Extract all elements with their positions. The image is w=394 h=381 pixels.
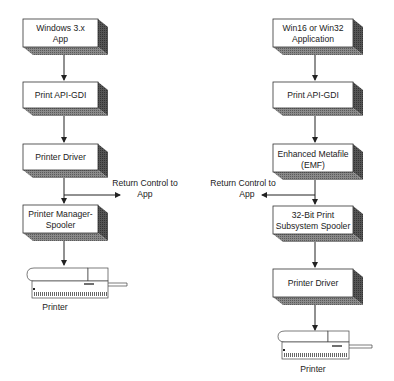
return-label: Return Control to — [112, 178, 178, 188]
return-label: Return Control to — [210, 178, 276, 188]
box-label: Application — [292, 34, 334, 44]
box-label: Windows 3.x — [36, 23, 85, 33]
box-windows-app: Windows 3.x App — [23, 19, 108, 55]
box-printer-manager-spooler: Printer Manager- Spooler — [23, 205, 108, 241]
box-win16-win32-application: Win16 or Win32 Application — [273, 19, 363, 55]
printer-icon — [27, 268, 127, 298]
box-label: 32-Bit Print — [292, 210, 335, 220]
box-print-api-gdi: Print API-GDI — [23, 82, 108, 116]
box-label: Enhanced Metafile — [277, 149, 348, 159]
printer-icon — [278, 331, 372, 359]
box-label: Print API-GDI — [35, 90, 87, 100]
box-print-api-gdi: Print API-GDI — [273, 82, 363, 116]
box-printer-driver: Printer Driver — [23, 144, 108, 178]
return-label: App — [137, 189, 153, 199]
printer-label: Printer — [42, 302, 67, 312]
box-label: Subsystem Spooler — [276, 221, 351, 231]
box-printer-driver: Printer Driver — [273, 269, 363, 305]
print-architecture-diagram: Windows 3.x App Print API-GDI Printer Dr… — [0, 0, 394, 381]
box-label: Printer Driver — [35, 152, 86, 162]
box-label: Printer Manager- — [28, 209, 93, 219]
box-label: App — [53, 34, 69, 44]
box-enhanced-metafile: Enhanced Metafile (EMF) — [273, 144, 363, 180]
box-label: Printer Driver — [288, 278, 339, 288]
box-label: Win16 or Win32 — [282, 23, 343, 33]
box-label: (EMF) — [301, 160, 325, 170]
box-label: Print API-GDI — [287, 90, 339, 100]
printer-label: Printer — [300, 364, 325, 374]
left-flow: Windows 3.x App Print API-GDI Printer Dr… — [23, 19, 178, 312]
box-32bit-print-subsystem-spooler: 32-Bit Print Subsystem Spooler — [273, 206, 363, 242]
box-label: Spooler — [46, 220, 76, 230]
right-flow: Win16 or Win32 Application Print API-GDI… — [210, 19, 372, 374]
return-label: App — [239, 189, 255, 199]
